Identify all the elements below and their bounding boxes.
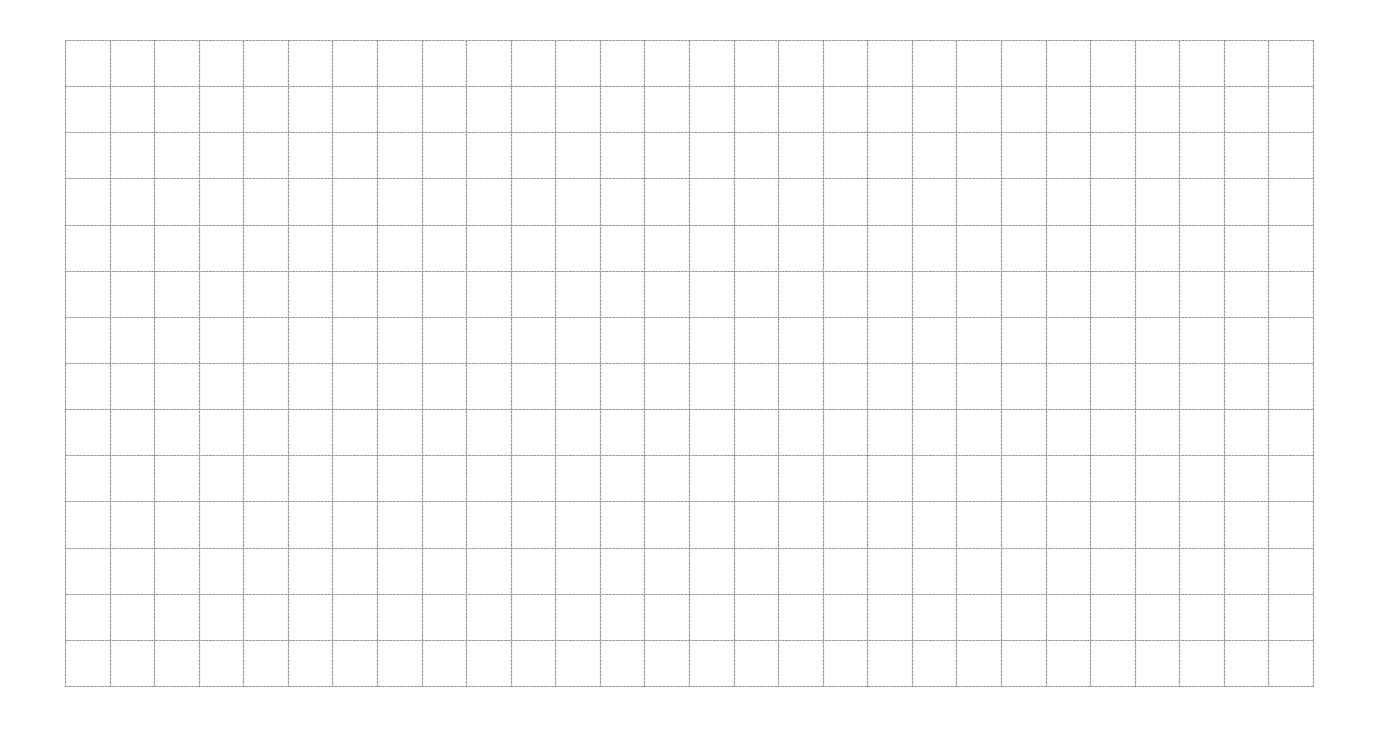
grid-lines <box>65 40 1315 688</box>
grid-paper <box>65 40 1315 688</box>
